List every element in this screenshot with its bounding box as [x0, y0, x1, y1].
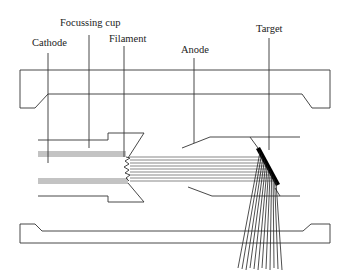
- x-ray-fan: [238, 152, 282, 270]
- anode-label: Anode: [181, 44, 209, 55]
- electron-beam: [130, 157, 276, 181]
- anode-top: [182, 137, 300, 148]
- focussing-cup-bottom: [38, 183, 144, 202]
- target-label: Target: [256, 23, 283, 34]
- x-ray-line: [273, 177, 274, 268]
- filament: [124, 157, 130, 181]
- filament-label: Filament: [109, 33, 146, 44]
- x-ray-line: [270, 174, 272, 270]
- cathode-rod-bottom: [38, 179, 128, 183]
- x-ray-tube-diagram: Cathode Focussing cup Filament Anode Tar…: [0, 0, 343, 280]
- focussing-cup-label: Focussing cup: [60, 17, 120, 28]
- housing-bottom: [20, 224, 330, 243]
- housing-top: [20, 70, 330, 108]
- cathode-label: Cathode: [32, 37, 67, 48]
- x-ray-line: [266, 171, 270, 269]
- target-support-top: [250, 137, 258, 148]
- x-ray-line: [250, 160, 264, 268]
- cathode-rod-top: [38, 152, 126, 156]
- anode-bottom: [188, 187, 300, 196]
- target-support-bottom: [275, 188, 280, 196]
